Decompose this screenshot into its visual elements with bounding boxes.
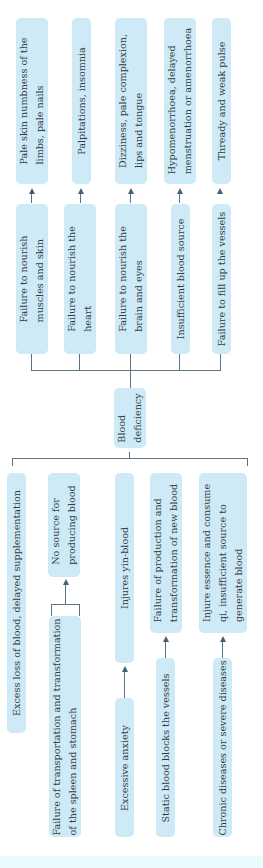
origin-box-3: Excessive anxiety [115, 698, 134, 837]
cause-box-3: Failure to nourish thebrain and eyes [115, 204, 147, 354]
mechanism-box-5: Injure essence and consumeqi, insufficie… [199, 473, 247, 633]
cause-text: Failure to fill up the vessels [214, 212, 230, 346]
bottom-band [0, 856, 263, 868]
mechanism-text: generate blood [231, 484, 247, 622]
origin-box-2: Failure of transportation and transforma… [49, 616, 81, 837]
arrow-up-icon [128, 188, 134, 194]
cause-text: Failure to nourish [16, 236, 32, 323]
mechanism-box-2: No source forproducing blood [48, 473, 80, 577]
brace [12, 458, 248, 459]
mechanism-text: Failure of production and [150, 484, 166, 622]
symptom-text: Pale skin numbness of the [16, 37, 32, 164]
connector [124, 670, 125, 698]
cause-box-1: Failure to nourishmuscles and skin [16, 204, 48, 354]
symptom-text: limbs, pale nails [32, 37, 48, 164]
connector [79, 604, 80, 616]
arrow-up-icon [177, 188, 183, 194]
origin-box-5: Chronic diseases or severe diseases [213, 658, 232, 837]
symptom-text: Hypomenorrhoea, delayed [164, 28, 180, 175]
connector [51, 604, 79, 605]
symptom-box-1: Pale skin numbness of thelimbs, pale nai… [16, 18, 48, 184]
center-node: Blooddeficiency [114, 388, 146, 448]
connector [31, 354, 32, 371]
brace [12, 458, 13, 466]
origin-text: Failure of transportation and transforma… [49, 618, 65, 835]
mechanism-text: producing blood [64, 485, 80, 565]
mechanism-text: qi, insufficient source to [215, 484, 231, 622]
connector [79, 354, 80, 371]
origin-text: Chronic diseases or severe diseases [215, 660, 231, 835]
symptom-box-3: Dizziness, pale complexion,lips and tong… [115, 18, 147, 184]
cause-text: muscles and skin [32, 236, 48, 323]
cause-text: heart [80, 226, 96, 332]
arrow-up-icon [78, 188, 84, 194]
arrow-up-icon [163, 636, 169, 642]
connector [130, 370, 131, 389]
mechanism-text: Injure essence and consume [199, 484, 215, 622]
origin-text: of the spleen and stomach [65, 618, 81, 835]
brace [129, 452, 130, 458]
arrow-up-icon [63, 579, 69, 585]
origin-box-4: Static blood blocks the vessels [156, 658, 175, 837]
connector [220, 354, 221, 371]
brace [247, 458, 248, 466]
connector [130, 354, 131, 371]
symptom-text: menstruation or amenorrhoea [180, 28, 196, 175]
connector [179, 354, 180, 371]
connector [31, 370, 221, 371]
mechanism-text: transformation of new blood [166, 484, 182, 622]
center-label: Blood [114, 393, 130, 442]
cause-text: Failure to nourish the [64, 226, 80, 332]
origin-text: Excessive anxiety [117, 725, 133, 811]
mechanism-box-1: Excess loss of blood, delayed supplement… [7, 473, 26, 733]
cause-box-4: Insufficient blood source [171, 204, 190, 354]
connector [222, 640, 223, 658]
symptom-text: Palpitations, insomnia [74, 47, 90, 155]
mechanism-box-3: Injures yin-blood [115, 473, 134, 663]
center-label: deficiency [130, 393, 146, 442]
cause-text: Insufficient blood source [173, 219, 189, 340]
mechanism-text: No source for [48, 485, 64, 565]
arrow-up-icon [220, 636, 226, 642]
symptom-box-4: Hypomenorrhoea, delayedmenstruation or a… [164, 18, 196, 184]
connector [51, 604, 52, 616]
cause-text: Failure to nourish the [115, 226, 131, 332]
symptom-box-5: Thready and weak pulse [212, 18, 231, 184]
cause-box-5: Failure to fill up the vessels [212, 204, 231, 354]
mechanism-text: Excess loss of blood, delayed supplement… [9, 490, 25, 716]
symptom-text: lips and tongue [131, 34, 147, 168]
connector [65, 583, 66, 604]
symptom-text: Dizziness, pale complexion, [115, 34, 131, 168]
arrow-up-icon [122, 666, 128, 672]
symptom-box-2: Palpitations, insomnia [72, 18, 91, 184]
mechanism-text: Injures yin-blood [117, 527, 133, 609]
cause-text: brain and eyes [131, 226, 147, 332]
arrow-up-icon [217, 188, 223, 194]
connector [165, 640, 166, 658]
origin-text: Static blood blocks the vessels [158, 673, 174, 822]
arrow-up-icon [29, 188, 35, 194]
mechanism-box-4: Failure of production andtransformation … [150, 473, 182, 633]
cause-box-2: Failure to nourish theheart [64, 204, 96, 354]
symptom-text: Thready and weak pulse [214, 42, 230, 161]
